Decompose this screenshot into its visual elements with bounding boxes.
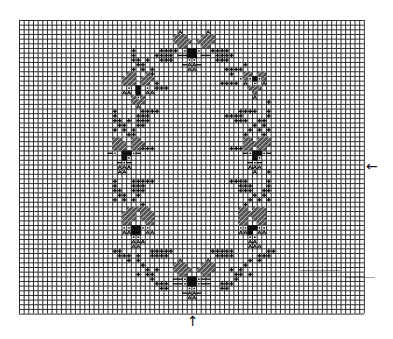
stitch-small-open-dot	[259, 78, 261, 80]
stitch-hatched-dense	[261, 220, 266, 225]
stitch-hatched-dense	[247, 85, 252, 90]
stitch-small-open-dot	[198, 283, 200, 285]
stitch-filled-black	[191, 281, 197, 287]
stitch-small-open-dot	[245, 227, 247, 229]
stitch-hatched-dense	[182, 34, 187, 39]
stitch-hatched-dense	[205, 262, 210, 267]
stitch-hatched-dense	[182, 39, 187, 44]
stitch-hatched-dense	[173, 267, 178, 272]
stitch-hatched-dense	[252, 211, 257, 216]
stitch-hatched-dense	[238, 206, 243, 211]
stitch-hatched-dense	[126, 216, 131, 221]
stitch-hatched-dense	[140, 216, 145, 221]
stitch-hatched-dense	[261, 206, 266, 211]
stitch-hatched-dense	[126, 211, 131, 216]
stitch-small-open-dot	[254, 162, 256, 164]
stitch-hatched-dense	[201, 267, 206, 272]
stitch-hatched-dense	[145, 211, 150, 216]
stitch-hatched-dense	[205, 267, 210, 272]
stitch-small-open-dot	[240, 227, 242, 229]
stitch-hatched-dense	[149, 220, 154, 225]
stitch-small-open-dot	[240, 78, 242, 80]
stitch-hatched-dense	[122, 146, 127, 151]
stitch-hatched-dense	[131, 95, 136, 100]
stitch-hatched-dense	[131, 137, 136, 142]
stitch-small-open-dot	[198, 278, 200, 280]
stitch-hatched-dense	[196, 39, 201, 44]
stitch-hatched-dense	[126, 71, 131, 76]
stitch-hatched-dense	[187, 39, 192, 44]
stitch-hatched-dense	[140, 141, 145, 146]
stitch-small-open-dot	[249, 78, 251, 80]
stitch-hatched-dense	[243, 220, 248, 225]
stitch-hatched-dense	[173, 262, 178, 267]
stitch-hatched-dense	[131, 206, 136, 211]
stitch-small-open-dot	[259, 227, 261, 229]
stitch-hatched-dense	[261, 146, 266, 151]
stitch-hatched-dense	[252, 90, 257, 95]
stitch-hatched-dense	[182, 272, 187, 277]
stitch-hatched-dense	[131, 99, 136, 104]
stitch-hatched-dense	[247, 141, 252, 146]
stitch-small-open-dot	[128, 227, 130, 229]
stitch-small-open-dot	[254, 83, 256, 85]
stitch-small-open-dot	[249, 152, 251, 154]
stitch-small-open-dot	[184, 283, 186, 285]
stitch-hatched-dense	[131, 211, 136, 216]
stitch-hatched-dense	[182, 267, 187, 272]
stitch-hatched-dense	[261, 76, 266, 81]
stitch-filled-black	[136, 90, 142, 96]
stitch-hatched-dense	[122, 216, 127, 221]
stitch-hatched-dense	[122, 141, 127, 146]
stitch-small-open-dot	[123, 227, 125, 229]
stitch-hatched-dense	[243, 146, 248, 151]
stitch-hatched-dense	[210, 39, 215, 44]
stitch-hatched-dense	[122, 76, 127, 81]
stitch-hatched-dense	[122, 211, 127, 216]
stitch-small-open-dot	[147, 227, 149, 229]
stitch-hatched-dense	[247, 211, 252, 216]
stitch-small-open-dot	[198, 50, 200, 52]
stitch-hatched-dense	[136, 141, 141, 146]
stitch-small-open-dot	[249, 236, 251, 238]
stitch-hatched-dense	[201, 262, 206, 267]
stitch-hatched-dense	[140, 81, 145, 86]
stitch-small-open-dot	[193, 59, 195, 61]
stitch-small-open-dot	[263, 152, 265, 154]
stitch-hatched-dense	[173, 34, 178, 39]
stitch-hatched-dense	[173, 39, 178, 44]
stitch-hatched-dense	[201, 34, 206, 39]
stitch-hatched-dense	[140, 206, 145, 211]
stitch-hatched-dense	[266, 137, 271, 142]
stitch-hatched-dense	[238, 220, 243, 225]
stitch-hatched-dense	[145, 216, 150, 221]
stitch-hatched-dense	[238, 216, 243, 221]
stitch-hatched-dense	[177, 272, 182, 277]
stitch-hatched-dense	[131, 141, 136, 146]
stitch-hatched-dense	[122, 220, 127, 225]
stitch-filled-black	[191, 53, 197, 59]
stitch-filled-black	[122, 155, 128, 161]
stitch-hatched-dense	[257, 206, 262, 211]
stitch-hatched-dense	[257, 146, 262, 151]
stitch-hatched-dense	[149, 76, 154, 81]
stitch-small-open-dot	[137, 236, 139, 238]
stitch-hatched-dense	[205, 39, 210, 44]
stitch-hatched-dense	[201, 43, 206, 48]
stitch-small-open-dot	[128, 87, 130, 89]
stitch-hatched-dense	[257, 137, 262, 142]
stitch-hatched-dense	[145, 206, 150, 211]
stitch-hatched-dense	[238, 211, 243, 216]
stitch-small-open-dot	[133, 152, 135, 154]
stitch-small-open-dot	[259, 157, 261, 159]
stitch-hatched-dense	[145, 220, 150, 225]
stitch-hatched-dense	[243, 211, 248, 216]
stitch-small-open-dot	[137, 96, 139, 98]
stitch-hatched-dense	[243, 206, 248, 211]
stitch-hatched-dense	[261, 141, 266, 146]
stitch-hatched-dense	[261, 71, 266, 76]
stitch-hatched-dense	[182, 262, 187, 267]
stitch-hatched-dense	[136, 99, 141, 104]
stitch-hatched-dense	[205, 34, 210, 39]
stitch-hatched-dense	[252, 141, 257, 146]
